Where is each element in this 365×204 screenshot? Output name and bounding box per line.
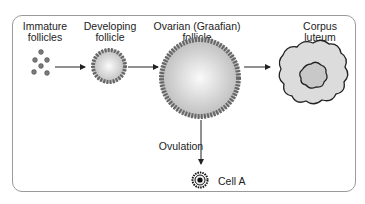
corpus-luteum-icon <box>279 40 348 104</box>
diagram-graphics <box>0 0 365 204</box>
developing-follicle-icon <box>92 49 126 83</box>
graafian-follicle-icon <box>160 38 240 118</box>
cell-a-icon <box>193 173 208 188</box>
immature-follicles-icon <box>32 50 50 76</box>
